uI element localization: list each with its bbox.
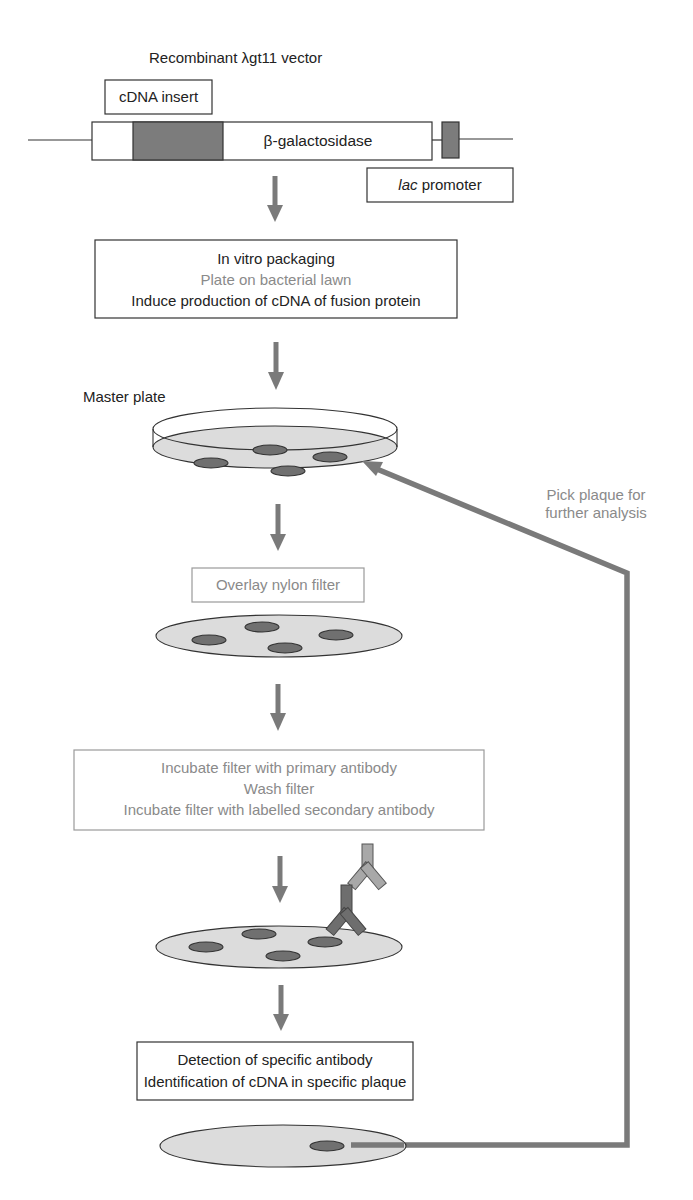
svg-text:Incubate filter with primary a: Incubate filter with primary antibody [161,759,397,776]
incubate-step-box: Incubate filter with primary antibody Wa… [74,750,484,830]
packaging-step-box: In vitro packaging Plate on bacterial la… [95,240,457,318]
down-arrow-icon [270,684,286,731]
plaque [253,445,287,455]
nylon-filter [156,615,402,657]
pick-plaque-label: Pick plaque for further analysis [545,486,647,521]
specific-plaque [310,1141,344,1151]
plaque [189,942,223,952]
svg-text:further analysis: further analysis [545,504,647,521]
down-arrow-icon [272,856,288,903]
plaque [266,951,300,961]
lac-promoter-segment [442,122,459,158]
down-arrow-icon [270,504,286,551]
diagram-title: Recombinant λgt11 vector [149,49,322,66]
down-arrow-icon [267,176,283,222]
plaque [242,929,276,939]
plaque [192,635,226,645]
master-plate-dish [153,408,397,476]
svg-text:Wash filter: Wash filter [244,780,314,797]
down-arrow-icon [268,342,284,390]
svg-text:Induce production of cDNA of f: Induce production of cDNA of fusion prot… [131,292,420,309]
svg-text:Overlay nylon filter: Overlay nylon filter [216,576,340,593]
svg-text:In vitro packaging: In vitro packaging [217,250,335,267]
lac-promoter-label: lac promoter [367,168,513,202]
plaque [268,643,302,653]
beta-galactosidase-label: β-galactosidase [264,132,373,149]
svg-text:Plate on bacterial lawn: Plate on bacterial lawn [201,271,352,288]
plaque [245,622,279,632]
plaque [194,458,228,468]
final-filter [160,1125,406,1167]
plaque [271,466,305,476]
plaque [308,937,342,947]
cdna-insert-label: cDNA insert [105,80,212,114]
lambda-gt11-screening-diagram: Recombinant λgt11 vector cDNA insert β-g… [0,0,693,1200]
overlay-filter-step-box: Overlay nylon filter [192,568,364,602]
svg-text:Identification of cDNA in spec: Identification of cDNA in specific plaqu… [144,1073,407,1090]
vector-construct: β-galactosidase [28,122,513,160]
detection-step-box: Detection of specific antibody Identific… [137,1042,413,1100]
svg-text:lac promoter: lac promoter [398,176,481,193]
plaque [319,630,353,640]
svg-text:Incubate filter with labelled: Incubate filter with labelled secondary … [123,801,435,818]
master-plate-label: Master plate [83,388,166,405]
down-arrow-icon [273,985,289,1031]
plaque [313,452,347,462]
primary-antibody-icon [326,885,366,935]
svg-text:cDNA insert: cDNA insert [119,88,199,105]
secondary-antibody-icon [348,844,387,890]
svg-text:Detection of specific antibody: Detection of specific antibody [177,1051,373,1068]
cdna-insert-segment [133,122,223,160]
svg-text:Pick plaque for: Pick plaque for [546,486,645,503]
